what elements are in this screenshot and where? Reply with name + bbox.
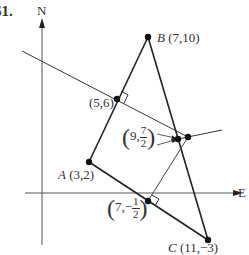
point-circumcenter-2 — [185, 134, 191, 140]
point-a — [86, 159, 92, 165]
label-mid-ac: (7,−12) — [107, 196, 148, 220]
perpendicular-bisector-ab — [22, 51, 188, 137]
point-mid-ab — [114, 96, 120, 102]
label-mid-ab: (5,6) — [89, 96, 114, 109]
point-b-coords: (7,10) — [168, 30, 199, 45]
point-c-name: C — [168, 240, 177, 255]
point-b-name: B — [157, 30, 165, 45]
label-point-a: A (3,2) — [58, 168, 94, 181]
point-c-coords: (11,−3) — [180, 240, 218, 255]
point-circumcenter — [175, 136, 181, 142]
label-circumcenter: (9,72) — [122, 125, 155, 149]
north-arrow-icon — [39, 18, 45, 28]
north-label: N — [37, 4, 46, 17]
mid-ac-y-fraction: 12 — [132, 196, 140, 220]
label-point-b: B (7,10) — [157, 31, 200, 44]
perpendicular-bisector-extension — [178, 130, 222, 139]
point-a-coords: (3,2) — [69, 167, 94, 182]
point-b — [145, 34, 151, 40]
label-point-c: C (11,−3) — [168, 241, 218, 254]
point-a-name: A — [58, 167, 66, 182]
east-label: E — [238, 186, 246, 199]
problem-number: 61. — [0, 3, 13, 20]
